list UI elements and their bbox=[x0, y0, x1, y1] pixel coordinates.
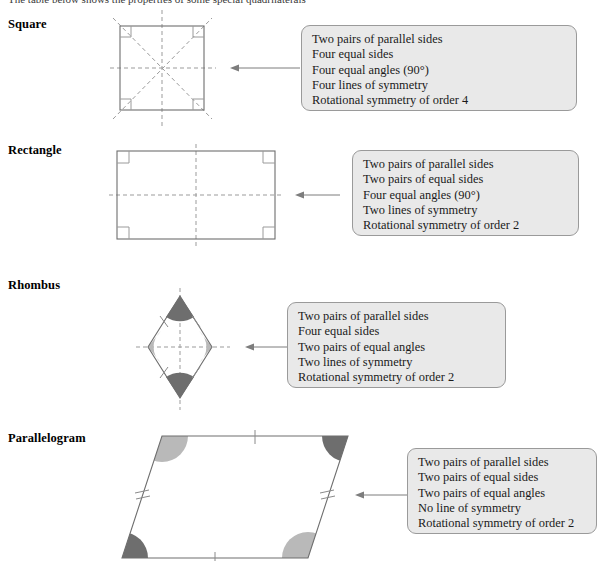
rectangle-figure bbox=[104, 140, 344, 250]
parallelogram-slant-ticks bbox=[135, 490, 335, 499]
callout-rectangle: Two pairs of parallel sides Two pairs of… bbox=[352, 150, 579, 236]
callout-square-line-5: Rotational symmetry of order 4 bbox=[312, 93, 567, 108]
callout-rectangle-line-2: Two pairs of equal sides bbox=[363, 172, 569, 187]
callout-rectangle-line-3: Four equal angles (90°) bbox=[363, 188, 569, 203]
callout-square-line-2: Four equal sides bbox=[312, 47, 567, 62]
parallelogram-callout-arrow bbox=[355, 492, 407, 499]
callout-rectangle-line-4: Two lines of symmetry bbox=[363, 203, 569, 218]
shape-label-rectangle: Rectangle bbox=[8, 143, 62, 158]
rhombus-figure bbox=[128, 286, 308, 412]
shape-label-square: Square bbox=[8, 17, 47, 32]
quadrilateral-properties-diagram: The table below shows the properties of … bbox=[0, 0, 603, 561]
callout-parallelogram-line-3: Two pairs of equal angles bbox=[418, 486, 587, 501]
parallelogram-horizontal-ticks bbox=[215, 430, 255, 561]
callout-parallelogram: Two pairs of parallel sides Two pairs of… bbox=[407, 448, 597, 534]
callout-rhombus-line-5: Rotational symmetry of order 2 bbox=[298, 370, 496, 385]
parallelogram-outline bbox=[122, 436, 348, 558]
parallelogram-figure bbox=[60, 428, 410, 561]
callout-parallelogram-line-2: Two pairs of equal sides bbox=[418, 470, 587, 485]
callout-parallelogram-line-4: No line of symmetry bbox=[418, 501, 587, 516]
clipped-page-heading-text: The table below shows the properties of … bbox=[8, 0, 306, 5]
square-figure bbox=[104, 8, 244, 128]
callout-square-line-1: Two pairs of parallel sides bbox=[312, 32, 567, 47]
callout-rhombus-line-1: Two pairs of parallel sides bbox=[298, 309, 496, 324]
callout-square-line-4: Four lines of symmetry bbox=[312, 78, 567, 93]
square-callout-arrow bbox=[230, 65, 300, 72]
rectangle-callout-arrow bbox=[295, 192, 340, 199]
callout-rhombus: Two pairs of parallel sides Four equal s… bbox=[287, 302, 506, 388]
shape-label-rhombus: Rhombus bbox=[8, 278, 60, 293]
callout-square: Two pairs of parallel sides Four equal s… bbox=[301, 25, 577, 111]
callout-parallelogram-line-1: Two pairs of parallel sides bbox=[418, 455, 587, 470]
callout-square-line-3: Four equal angles (90°) bbox=[312, 63, 567, 78]
callout-parallelogram-line-5: Rotational symmetry of order 2 bbox=[418, 516, 587, 531]
callout-rhombus-line-2: Four equal sides bbox=[298, 324, 496, 339]
callout-rectangle-line-1: Two pairs of parallel sides bbox=[363, 157, 569, 172]
callout-rhombus-line-3: Two pairs of equal angles bbox=[298, 340, 496, 355]
callout-rhombus-line-4: Two lines of symmetry bbox=[298, 355, 496, 370]
clipped-page-heading: The table below shows the properties of … bbox=[0, 0, 603, 9]
callout-rectangle-line-5: Rotational symmetry of order 2 bbox=[363, 218, 569, 233]
